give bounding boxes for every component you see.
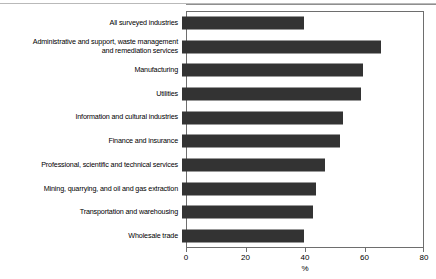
category-label: Mining, quarrying, and oil and gas extra… bbox=[0, 185, 182, 193]
category-label: Manufacturing bbox=[0, 66, 182, 74]
x-axis-tick bbox=[423, 248, 424, 252]
bar bbox=[182, 135, 340, 148]
bar-track bbox=[182, 130, 436, 154]
bar-rows: All surveyed industriesAdministrative an… bbox=[0, 11, 436, 248]
bar-track bbox=[182, 35, 436, 59]
bar bbox=[182, 64, 363, 77]
bar-track bbox=[182, 224, 436, 248]
bar-track bbox=[182, 153, 436, 177]
x-axis-title: % bbox=[186, 264, 424, 274]
x-axis-tick bbox=[186, 248, 187, 252]
bar-track bbox=[182, 82, 436, 106]
x-axis-tick bbox=[246, 248, 247, 252]
bar-row: Administrative and support, waste manage… bbox=[0, 35, 436, 59]
category-label: All surveyed industries bbox=[0, 19, 182, 27]
x-axis-tick bbox=[305, 248, 306, 252]
bar-row: Finance and insurance bbox=[0, 130, 436, 154]
bar bbox=[182, 87, 361, 100]
category-label: Transportation and warehousing bbox=[0, 208, 182, 216]
bar bbox=[182, 16, 304, 29]
bar bbox=[182, 230, 304, 243]
bar-track bbox=[182, 201, 436, 225]
bar-row: All surveyed industries bbox=[0, 11, 436, 35]
bar bbox=[182, 182, 316, 195]
bar bbox=[182, 111, 343, 124]
bar-track bbox=[182, 106, 436, 130]
bar-row: Professional, scientific and technical s… bbox=[0, 153, 436, 177]
bar-track bbox=[182, 58, 436, 82]
bar-row: Information and cultural industries bbox=[0, 106, 436, 130]
category-label: Administrative and support, waste manage… bbox=[0, 38, 182, 55]
bar-track bbox=[182, 11, 436, 35]
x-axis-tick-label: 60 bbox=[360, 253, 369, 263]
bar-chart: All surveyed industriesAdministrative an… bbox=[0, 0, 436, 279]
category-label: Information and cultural industries bbox=[0, 113, 182, 121]
x-axis-tick-label: 40 bbox=[301, 253, 310, 263]
category-label: Wholesale trade bbox=[0, 232, 182, 240]
category-label: Professional, scientific and technical s… bbox=[0, 161, 182, 169]
bar-row: Mining, quarrying, and oil and gas extra… bbox=[0, 177, 436, 201]
category-label: Utilities bbox=[0, 90, 182, 98]
bar bbox=[182, 40, 381, 53]
x-axis-tick-label: 20 bbox=[241, 253, 250, 263]
bar-row: Manufacturing bbox=[0, 58, 436, 82]
bar bbox=[182, 159, 325, 172]
bar bbox=[182, 206, 313, 219]
x-axis-tick-label: 0 bbox=[184, 253, 188, 263]
bar-track bbox=[182, 177, 436, 201]
x-axis-tick-label: 80 bbox=[420, 253, 429, 263]
category-label: Finance and insurance bbox=[0, 137, 182, 145]
x-axis-tick bbox=[365, 248, 366, 252]
bar-row: Transportation and warehousing bbox=[0, 201, 436, 225]
top-edge-artifact-segment bbox=[186, 4, 436, 5]
bar-row: Wholesale trade bbox=[0, 224, 436, 248]
bar-row: Utilities bbox=[0, 82, 436, 106]
